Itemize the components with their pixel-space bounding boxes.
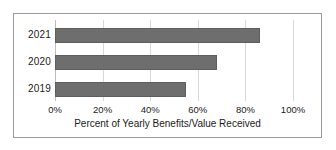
x-tick-label-20: 20% bbox=[83, 104, 123, 116]
category-label-2019: 2019 bbox=[11, 84, 51, 94]
x-tick-label-40: 40% bbox=[130, 104, 170, 116]
gridline-100 bbox=[293, 20, 294, 101]
x-axis-title: Percent of Yearly Benefits/Value Receive… bbox=[14, 118, 321, 130]
plot-area: 2021 2020 2019 bbox=[55, 20, 293, 101]
category-label-2021: 2021 bbox=[11, 30, 51, 40]
bar-2021 bbox=[55, 28, 260, 43]
category-label-2020: 2020 bbox=[11, 57, 51, 67]
x-tick-label-80: 80% bbox=[225, 104, 265, 116]
bar-row: 2019 bbox=[55, 80, 293, 98]
x-tick-label-60: 60% bbox=[178, 104, 218, 116]
chart-frame: 2021 2020 2019 0% 20% 40% 60% 80% 100% P… bbox=[13, 13, 322, 138]
x-tick-label-0: 0% bbox=[35, 104, 75, 116]
bar-2020 bbox=[55, 55, 217, 70]
x-axis-tick-labels: 0% 20% 40% 60% 80% 100% bbox=[55, 104, 293, 117]
bar-row: 2020 bbox=[55, 53, 293, 71]
bar-2019 bbox=[55, 82, 186, 97]
x-tick-label-100: 100% bbox=[273, 104, 313, 116]
bar-row: 2021 bbox=[55, 26, 293, 44]
